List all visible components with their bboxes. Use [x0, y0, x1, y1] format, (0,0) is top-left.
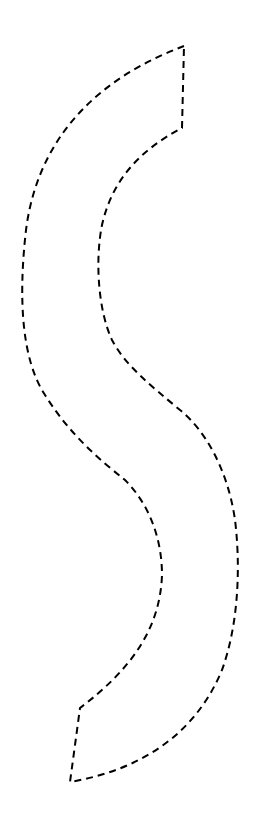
- s-band-dashed-path: [22, 46, 238, 782]
- s-curve-outline: [0, 0, 258, 819]
